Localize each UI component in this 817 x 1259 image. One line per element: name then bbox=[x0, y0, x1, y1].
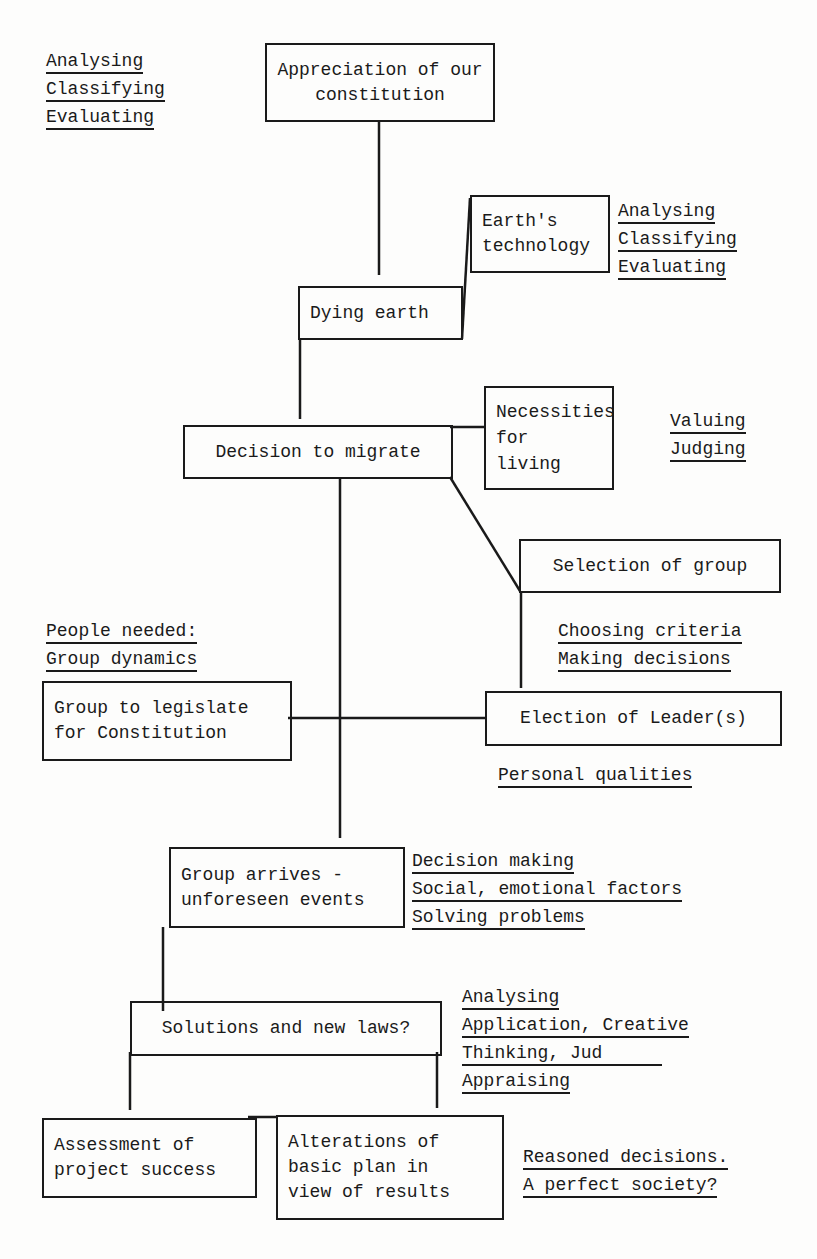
skill-label: Analysing bbox=[462, 986, 559, 1010]
node-appreciation-of-constitution: Appreciation of our constitution bbox=[265, 43, 495, 122]
skill-label: Analysing bbox=[618, 200, 715, 224]
skill-label: Reasoned decisions. bbox=[523, 1146, 728, 1170]
node-selection-of-group: Selection of group bbox=[519, 539, 781, 593]
skills-election: Personal qualities bbox=[498, 764, 692, 792]
skills-top-left: Analysing Classifying Evaluating bbox=[46, 50, 165, 134]
node-label: Earth's technology bbox=[482, 209, 590, 259]
node-group-arrives: Group arrives - unforeseen events bbox=[169, 847, 405, 928]
skills-group-arrives: Decision making Social, emotional factor… bbox=[412, 850, 682, 934]
node-group-to-legislate: Group to legislate for Constitution bbox=[42, 681, 292, 761]
skill-label: Application, Creative bbox=[462, 1014, 689, 1038]
node-earths-technology: Earth's technology bbox=[470, 195, 610, 273]
node-dying-earth: Dying earth bbox=[298, 286, 463, 340]
node-necessities-for-living: Necessities for living bbox=[484, 386, 614, 490]
skill-label: Choosing criteria bbox=[558, 620, 742, 644]
skills-final: Reasoned decisions. A perfect society? bbox=[523, 1146, 728, 1202]
node-label: Assessment of project success bbox=[54, 1133, 216, 1183]
node-label: Dying earth bbox=[310, 301, 429, 326]
skills-people-needed: People needed: Group dynamics bbox=[46, 620, 197, 676]
node-alterations-of-basic-plan: Alterations of basic plan in view of res… bbox=[276, 1115, 504, 1220]
node-label: Election of Leader(s) bbox=[520, 706, 747, 731]
skills-selection: Choosing criteria Making decisions bbox=[558, 620, 742, 676]
skill-label: Thinking, Jud bbox=[462, 1042, 662, 1066]
flowchart-canvas: Appreciation of our constitution Earth's… bbox=[0, 0, 817, 1259]
skill-label: Social, emotional factors bbox=[412, 878, 682, 902]
skills-necessities: Valuing Judging bbox=[670, 410, 746, 466]
node-label: Group to legislate for Constitution bbox=[54, 696, 248, 746]
skill-label: Evaluating bbox=[46, 106, 154, 130]
skill-label: Analysing bbox=[46, 50, 143, 74]
node-label: Solutions and new laws? bbox=[162, 1016, 410, 1041]
skill-label: Judging bbox=[670, 438, 746, 462]
skill-label: Personal qualities bbox=[498, 764, 692, 788]
skill-label: Classifying bbox=[618, 228, 737, 252]
skill-label: People needed: bbox=[46, 620, 197, 644]
skills-solutions: Analysing Application, Creative Thinking… bbox=[462, 986, 689, 1098]
skill-label: Valuing bbox=[670, 410, 746, 434]
node-label: Selection of group bbox=[553, 554, 747, 579]
skill-label: Solving problems bbox=[412, 906, 585, 930]
node-election-of-leaders: Election of Leader(s) bbox=[485, 691, 782, 746]
node-decision-to-migrate: Decision to migrate bbox=[183, 425, 453, 479]
node-label: Decision to migrate bbox=[215, 440, 420, 465]
skill-label: Classifying bbox=[46, 78, 165, 102]
node-label: Group arrives - unforeseen events bbox=[181, 863, 365, 913]
node-assessment-of-project-success: Assessment of project success bbox=[42, 1118, 257, 1198]
skill-label: Making decisions bbox=[558, 648, 731, 672]
skill-label: Appraising bbox=[462, 1070, 570, 1094]
skills-earths-technology: Analysing Classifying Evaluating bbox=[618, 200, 737, 284]
skill-label: Decision making bbox=[412, 850, 574, 874]
node-solutions-and-new-laws: Solutions and new laws? bbox=[130, 1001, 442, 1056]
skill-label: Evaluating bbox=[618, 256, 726, 280]
node-label: Appreciation of our constitution bbox=[277, 58, 482, 108]
skill-label: Group dynamics bbox=[46, 648, 197, 672]
node-label: Alterations of basic plan in view of res… bbox=[288, 1130, 450, 1205]
skill-label: A perfect society? bbox=[523, 1174, 717, 1198]
node-label: Necessities for living bbox=[496, 399, 615, 477]
